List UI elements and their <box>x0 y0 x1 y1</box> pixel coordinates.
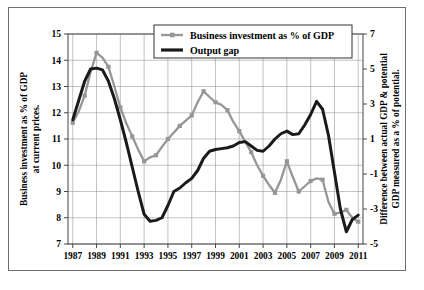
x-tick-label: 1999 <box>206 251 225 261</box>
y-tick-label-left: 8 <box>56 212 61 223</box>
y-axis-left-title-line: at current prices. <box>31 105 41 173</box>
x-tick-label: 2003 <box>254 251 273 261</box>
y-axis-left: 789101112131415 <box>51 28 68 249</box>
y-tick-label-left: 15 <box>51 28 61 39</box>
legend-item-label: Business investment as % of GDP <box>190 30 334 41</box>
series-marker <box>261 174 265 178</box>
x-tick-label: 2001 <box>230 251 249 261</box>
series-marker <box>249 150 253 154</box>
series-marker <box>166 137 170 141</box>
series-marker <box>178 124 182 128</box>
x-tick-label: 1995 <box>159 251 178 261</box>
series-marker <box>356 220 360 224</box>
legend-item-label: Output gap <box>190 45 240 56</box>
y-tick-label-left: 12 <box>51 107 61 118</box>
y-axis-right-title-line: Difference between actual GDP & potentia… <box>379 53 389 225</box>
series-marker <box>320 178 324 182</box>
series-marker <box>273 191 277 195</box>
series-marker <box>332 212 336 216</box>
gridlines <box>68 34 363 244</box>
series-marker <box>344 208 348 212</box>
series-marker <box>202 89 206 93</box>
y-tick-label-right: 3 <box>370 98 375 109</box>
series-marker <box>190 113 194 117</box>
y-tick-label-left: 7 <box>56 238 61 249</box>
series-marker <box>83 94 87 98</box>
y-tick-label-right: 5 <box>370 63 375 74</box>
y-tick-label-right: 1 <box>370 133 375 144</box>
y-tick-label-left: 10 <box>51 160 61 171</box>
x-tick-label: 1991 <box>111 251 130 261</box>
x-tick-label: 2011 <box>349 251 368 261</box>
y-tick-label-left: 9 <box>56 186 61 197</box>
y-tick-label-right: -1 <box>370 168 378 179</box>
y-axis-right-title-line: GDP measured as a % of potential. <box>391 69 401 208</box>
x-tick-label: 1993 <box>135 251 154 261</box>
series-marker <box>309 179 313 183</box>
y-tick-label-left: 14 <box>51 55 61 66</box>
y-tick-label-right: -5 <box>370 238 378 249</box>
y-axis-left-title-line: Business investment as % of GDP <box>19 72 29 206</box>
chart-canvas: 789101112131415-5-3-11357198719891991199… <box>9 8 407 272</box>
legend-marker <box>170 33 175 38</box>
figure-frame: 789101112131415-5-3-11357198719891991199… <box>8 7 406 271</box>
series-marker <box>213 100 217 104</box>
y-axis-right: -5-3-11357 <box>363 28 378 249</box>
x-tick-label: 2005 <box>277 251 296 261</box>
series-marker <box>285 159 289 163</box>
series-marker <box>142 159 146 163</box>
series-marker <box>297 189 301 193</box>
series-marker <box>237 129 241 133</box>
x-tick-label: 1997 <box>182 251 201 261</box>
series-marker <box>106 65 110 69</box>
x-tick-label: 1987 <box>63 251 82 261</box>
x-tick-label: 2009 <box>325 251 344 261</box>
x-axis: 1987198919911993199519971999200120032005… <box>63 244 367 261</box>
series-marker <box>154 153 158 157</box>
x-tick-label: 1989 <box>87 251 106 261</box>
y-axis-left-title: Business investment as % of GDPat curren… <box>19 72 41 206</box>
y-tick-label-left: 11 <box>52 133 61 144</box>
y-tick-label-right: 7 <box>370 28 375 39</box>
y-tick-label-right: -3 <box>370 203 378 214</box>
series-marker <box>71 121 75 125</box>
series-marker <box>94 51 98 55</box>
series-marker <box>130 134 134 138</box>
legend: Business investment as % of GDPOutput ga… <box>154 25 352 58</box>
x-tick-label: 2007 <box>301 251 320 261</box>
y-axis-right-title: Difference between actual GDP & potentia… <box>379 53 401 225</box>
series-marker <box>225 108 229 112</box>
series-marker <box>118 105 122 109</box>
y-tick-label-left: 13 <box>51 81 61 92</box>
